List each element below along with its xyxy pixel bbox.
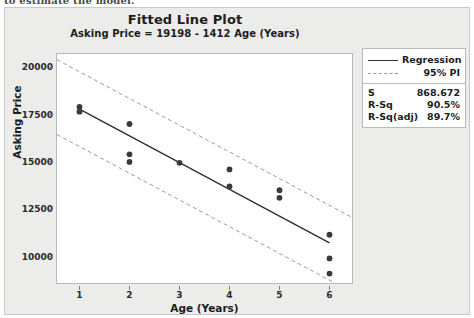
legend-label-regression: Regression <box>402 54 462 65</box>
stats-key-rsq-adj: R-Sq(adj) <box>368 111 418 123</box>
y-axis-tick-label: 17500 <box>7 110 53 120</box>
y-axis-tick-label: 12500 <box>7 204 53 214</box>
stats-value-rsq: 90.5% <box>427 99 460 111</box>
x-axis-tick-label: 6 <box>317 290 343 300</box>
plot-canvas <box>57 54 352 283</box>
stats-row-rsq: R-Sq 90.5% <box>368 99 460 111</box>
data-point <box>227 167 233 173</box>
data-point <box>177 160 183 166</box>
chart-title: Fitted Line Plot <box>5 12 365 27</box>
data-point <box>327 232 333 238</box>
x-axis-tick-mark <box>279 286 280 290</box>
x-axis-tick-label: 1 <box>67 290 93 300</box>
legend-item-prediction-interval: 95% PI <box>368 66 460 79</box>
x-axis-tick-mark <box>179 286 180 290</box>
y-axis-tick-mark <box>49 161 53 162</box>
data-point <box>227 184 233 190</box>
data-point <box>327 256 333 262</box>
plot-area <box>56 53 353 284</box>
stats-key-s: S <box>368 87 375 99</box>
data-point <box>277 195 283 201</box>
regression-line <box>80 109 330 243</box>
x-axis-tick-mark <box>129 286 130 290</box>
y-axis-tick-mark <box>49 114 53 115</box>
fitted-line-plot-figure: Fitted Line Plot Asking Price = 19198 - … <box>4 7 470 315</box>
x-axis-tick-label: 4 <box>217 290 243 300</box>
chart-subtitle: Asking Price = 19198 - 1412 Age (Years) <box>5 27 365 40</box>
y-axis-tick-label: 15000 <box>7 157 53 167</box>
prediction-interval-upper <box>57 60 352 218</box>
stats-key-rsq: R-Sq <box>368 99 393 111</box>
document-text-remnant: to estimate the model. <box>4 0 204 5</box>
x-axis-tick-label: 5 <box>267 290 293 300</box>
data-point <box>77 109 83 115</box>
x-axis-tick-mark <box>79 286 80 290</box>
solid-line-icon <box>368 55 398 65</box>
legend-label-prediction-interval: 95% PI <box>402 67 460 78</box>
data-point <box>127 121 133 127</box>
y-axis-tick-label: 20000 <box>7 62 53 72</box>
data-point <box>127 151 133 157</box>
x-axis-tick-label: 2 <box>117 290 143 300</box>
data-point <box>277 187 283 193</box>
x-axis-title: Age (Years) <box>56 302 353 314</box>
y-axis-ticks: 1000012500150001750020000 <box>5 53 53 284</box>
x-axis-tick-mark <box>329 286 330 290</box>
legend-item-regression: Regression <box>368 53 460 66</box>
y-axis-tick-mark <box>49 256 53 257</box>
x-axis-tick-mark <box>229 286 230 290</box>
stats-value-rsq-adj: 89.7% <box>427 111 460 123</box>
x-axis-ticks: 123456 <box>56 286 353 300</box>
prediction-interval-lower <box>57 135 352 283</box>
stats-row-s: S 868.672 <box>368 87 460 99</box>
x-axis-tick-label: 3 <box>167 290 193 300</box>
data-point <box>127 159 133 165</box>
chart-header: Fitted Line Plot Asking Price = 19198 - … <box>5 12 365 40</box>
screenshot-root: to estimate the model. Fitted Line Plot … <box>0 0 474 318</box>
data-point <box>327 271 333 277</box>
statistics-panel: S 868.672 R-Sq 90.5% R-Sq(adj) 89.7% <box>362 83 466 128</box>
legend: Regression 95% PI <box>362 48 466 84</box>
stats-row-rsq-adj: R-Sq(adj) 89.7% <box>368 111 460 123</box>
y-axis-tick-mark <box>49 209 53 210</box>
stats-value-s: 868.672 <box>417 87 460 99</box>
y-axis-tick-mark <box>49 67 53 68</box>
dashed-line-icon <box>368 68 398 78</box>
y-axis-tick-label: 10000 <box>7 252 53 262</box>
